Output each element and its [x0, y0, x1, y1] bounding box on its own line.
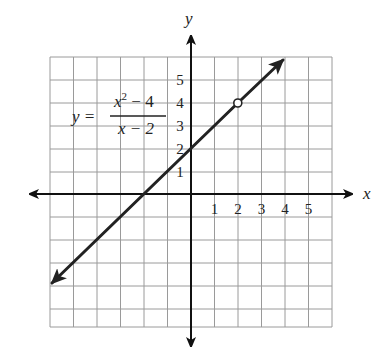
x-tick-3: 3 [258, 201, 266, 217]
equation-lhs: y = [70, 107, 95, 126]
x-tick-1: 1 [211, 201, 219, 217]
x-tick-5: 5 [305, 201, 313, 217]
y-tick-1: 1 [176, 164, 184, 180]
y-tick-3: 3 [176, 118, 184, 134]
x-tick-labels: 1 2 3 4 5 [211, 201, 313, 217]
y-tick-labels: 1 2 3 4 5 [176, 72, 184, 180]
axes [30, 36, 352, 346]
x-axis-label: x [362, 184, 371, 203]
x-tick-2: 2 [234, 201, 242, 217]
equation-label: y = x2 − 4 x − 2 [70, 90, 166, 138]
graph-figure: x y 1 2 3 4 5 1 2 3 4 5 y = x2 − 4 x − 2 [0, 0, 385, 353]
equation-numerator: x2 − 4 [113, 90, 154, 111]
y-axis-label: y [183, 9, 193, 28]
y-tick-5: 5 [176, 72, 184, 88]
y-tick-4: 4 [176, 95, 184, 111]
equation-denominator: x − 2 [117, 119, 155, 138]
hole-open-circle [234, 99, 242, 107]
x-tick-4: 4 [281, 201, 289, 217]
